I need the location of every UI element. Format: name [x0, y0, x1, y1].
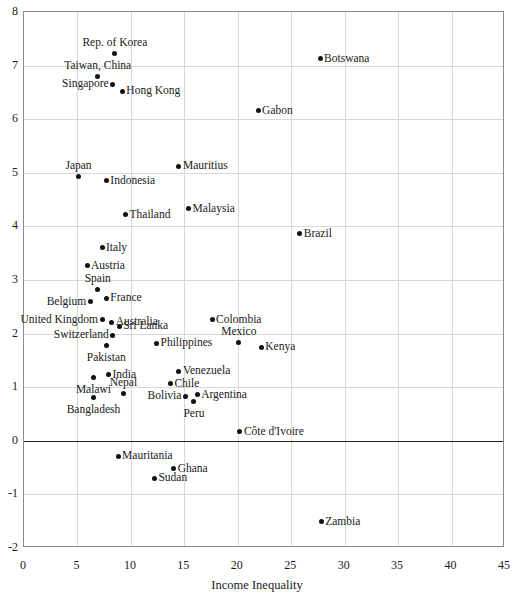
data-point-label: United Kingdom: [20, 314, 98, 326]
data-point-label: Mauritius: [183, 161, 228, 173]
data-point[interactable]: [120, 89, 125, 94]
y-axis-tick-label: -2: [0, 541, 18, 553]
data-point[interactable]: [171, 466, 176, 471]
x-axis-tick-label: 40: [445, 559, 457, 571]
x-axis-tick-label: 35: [391, 559, 403, 571]
x-axis-tick-label: 0: [20, 559, 26, 571]
data-point-label: Peru: [183, 408, 204, 420]
data-point-label: France: [110, 292, 141, 304]
data-point-label: Argentina: [201, 389, 247, 401]
data-point-label: Austria: [91, 260, 125, 272]
data-point[interactable]: [318, 56, 323, 61]
data-point-label: Thailand: [130, 209, 171, 221]
data-point[interactable]: [191, 399, 196, 404]
data-point[interactable]: [104, 343, 109, 348]
data-point[interactable]: [236, 340, 241, 345]
data-point-label: Singapore: [62, 79, 109, 91]
data-point[interactable]: [100, 245, 105, 250]
data-point[interactable]: [112, 51, 117, 56]
data-point[interactable]: [176, 164, 181, 169]
data-point-label: Taiwan, China: [64, 59, 131, 71]
gridline-vertical: [238, 12, 239, 546]
data-point-label: Brazil: [304, 228, 332, 240]
data-point[interactable]: [110, 333, 115, 338]
x-axis-tick-label: 30: [338, 559, 350, 571]
data-point[interactable]: [256, 108, 261, 113]
data-point-label: Bangladesh: [67, 404, 121, 416]
data-point[interactable]: [110, 82, 115, 87]
data-point[interactable]: [109, 320, 114, 325]
data-point-label: Japan: [65, 159, 91, 171]
data-point[interactable]: [259, 345, 264, 350]
data-point-label: Gabon: [262, 105, 293, 117]
data-point-label: Mexico: [221, 325, 256, 337]
data-point[interactable]: [297, 231, 302, 236]
data-point-label: Sri Lanka: [123, 320, 168, 332]
y-axis-tick-label: 6: [0, 112, 18, 124]
y-axis-tick-label: 8: [0, 5, 18, 17]
data-point[interactable]: [100, 317, 105, 322]
data-point[interactable]: [168, 381, 173, 386]
x-axis-tick-label: 25: [284, 559, 296, 571]
data-point-label: Nepal: [110, 376, 137, 388]
data-point-label: Kenya: [265, 341, 295, 353]
gridline-vertical: [452, 12, 453, 546]
y-axis-tick-label: 7: [0, 59, 18, 71]
data-point[interactable]: [91, 375, 96, 380]
data-point-label: Hong Kong: [126, 86, 180, 98]
gridline-vertical: [77, 12, 78, 546]
gridline-horizontal: [24, 119, 503, 120]
data-point-label: Sudan: [158, 473, 187, 485]
data-point[interactable]: [85, 263, 90, 268]
data-point-label: Switzerland: [54, 329, 109, 341]
data-point[interactable]: [123, 212, 128, 217]
gridline-vertical: [398, 12, 399, 546]
y-axis-tick-label: 2: [0, 327, 18, 339]
data-point-label: Belgium: [47, 296, 87, 308]
data-point[interactable]: [176, 369, 181, 374]
data-point[interactable]: [76, 174, 81, 179]
data-point[interactable]: [195, 392, 200, 397]
data-point[interactable]: [152, 476, 157, 481]
data-point-label: Zambia: [325, 516, 360, 528]
data-point[interactable]: [116, 454, 121, 459]
y-axis-tick-label: 0: [0, 434, 18, 446]
data-point-label: Pakistan: [87, 352, 126, 364]
data-point[interactable]: [319, 519, 324, 524]
data-point-label: Bolivia: [148, 391, 182, 403]
data-point-label: Mauritania: [122, 451, 172, 463]
x-axis-tick-label: 45: [498, 559, 510, 571]
data-point[interactable]: [104, 178, 109, 183]
data-point[interactable]: [88, 299, 93, 304]
x-axis-tick-label: 15: [177, 559, 189, 571]
data-point[interactable]: [186, 206, 191, 211]
y-axis-tick-label: 1: [0, 380, 18, 392]
data-point-label: Chile: [174, 378, 199, 390]
gridline-horizontal: [24, 226, 503, 227]
data-point-label: Rep. of Korea: [82, 36, 147, 48]
data-point[interactable]: [91, 395, 96, 400]
x-axis-title: Income Inequality: [0, 578, 514, 593]
data-point-label: Malaysia: [193, 203, 235, 215]
gridline-vertical: [291, 12, 292, 546]
data-point-label: Indonesia: [110, 175, 155, 187]
data-point[interactable]: [183, 394, 188, 399]
data-point[interactable]: [154, 341, 159, 346]
data-point[interactable]: [237, 429, 242, 434]
x-axis-tick-label: 5: [73, 559, 79, 571]
data-point[interactable]: [121, 391, 126, 396]
gridline-vertical: [345, 12, 346, 546]
y-axis-tick-label: 4: [0, 219, 18, 231]
data-point-label: Venezuela: [183, 365, 230, 377]
data-point[interactable]: [95, 287, 100, 292]
data-point-label: Italy: [106, 242, 127, 254]
scatter-chart: Rep. of KoreaBotswanaTaiwan, ChinaSingap…: [0, 0, 514, 598]
data-point-label: Côte d'Ivoire: [244, 426, 304, 438]
x-axis-tick-label: 20: [231, 559, 243, 571]
y-axis-tick-label: 3: [0, 273, 18, 285]
data-point-label: Botswana: [324, 53, 369, 65]
data-point-label: Philippines: [161, 337, 213, 349]
data-point[interactable]: [104, 296, 109, 301]
data-point[interactable]: [117, 324, 122, 329]
data-point[interactable]: [210, 317, 215, 322]
